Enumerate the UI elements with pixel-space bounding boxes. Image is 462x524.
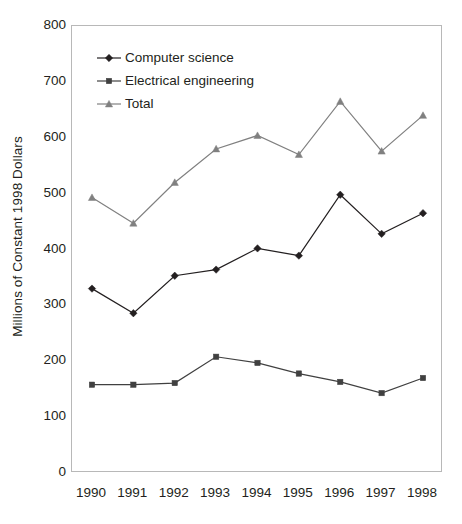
series-line [92, 101, 423, 223]
data-point [254, 245, 261, 252]
data-point [419, 209, 426, 216]
data-point [295, 252, 302, 259]
series-line [92, 195, 423, 313]
data-point [131, 382, 136, 387]
line-chart-figure: Millions of Constant 1998 Dollars 800700… [0, 0, 462, 524]
data-point [88, 194, 95, 201]
data-point [419, 112, 426, 119]
data-point [296, 371, 301, 376]
legend-item: Computer science [96, 46, 296, 69]
data-point [172, 380, 177, 385]
legend-label: Computer science [125, 51, 234, 65]
legend-label: Electrical engineering [125, 74, 254, 88]
legend-item: Electrical engineering [96, 69, 296, 92]
data-point [338, 379, 343, 384]
data-point [212, 266, 219, 273]
square-marker [96, 74, 122, 88]
triangle-marker [96, 97, 122, 111]
data-point [337, 98, 344, 105]
data-point [254, 132, 261, 139]
data-point [255, 360, 260, 365]
legend-item: Total [96, 92, 296, 115]
series-electrical-engineering [89, 354, 425, 396]
data-point [213, 354, 218, 359]
series-total [88, 98, 426, 226]
data-point [420, 375, 425, 380]
data-point [379, 390, 384, 395]
x-axis-tick: 1998 [392, 486, 452, 500]
legend-label: Total [125, 97, 154, 111]
diamond-marker [96, 51, 122, 65]
data-point [89, 382, 94, 387]
chart-legend: Computer scienceElectrical engineeringTo… [96, 46, 296, 115]
series-computer-science [88, 191, 426, 317]
data-point [88, 285, 95, 292]
